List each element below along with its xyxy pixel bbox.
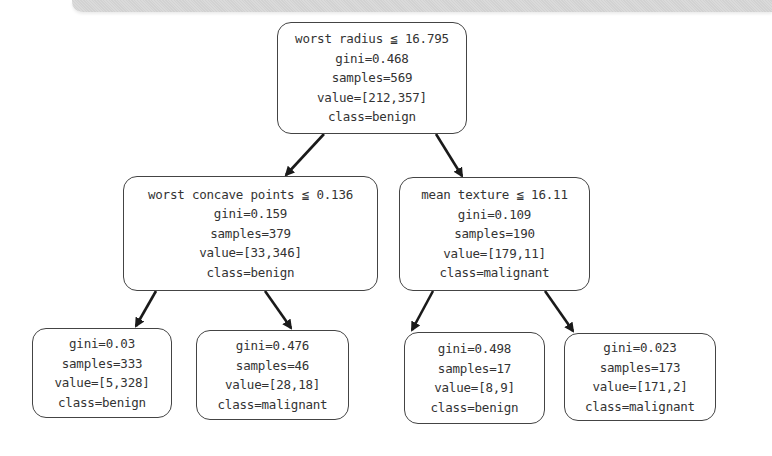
node-value: value=[33,346] [199, 243, 302, 263]
node-class: class=malignant [218, 395, 328, 415]
node-value: value=[179,11] [443, 244, 546, 264]
node-gini: gini=0.476 [236, 336, 309, 356]
node-value: value=[212,357] [317, 88, 427, 108]
node-samples: samples=379 [210, 224, 291, 244]
node-class: class=benign [431, 398, 519, 418]
node-samples: samples=333 [62, 354, 143, 374]
tree-leaf-rr: gini=0.023 samples=173 value=[171,2] cla… [564, 333, 716, 421]
node-class: class=benign [58, 393, 146, 413]
node-samples: samples=569 [332, 68, 413, 88]
node-gini: gini=0.159 [214, 204, 287, 224]
edge-left-lr [265, 291, 291, 328]
node-gini: gini=0.109 [458, 205, 531, 225]
node-class: class=benign [328, 107, 416, 127]
node-value: value=[28,18] [225, 375, 320, 395]
node-value: value=[8,9] [434, 378, 515, 398]
edge-left-ll [136, 291, 156, 326]
tree-node-right: mean texture ≦ 16.11 gini=0.109 samples=… [399, 177, 590, 291]
node-samples: samples=46 [236, 356, 309, 376]
node-split: mean texture ≦ 16.11 [421, 185, 568, 205]
node-split: worst radius ≦ 16.795 [295, 29, 449, 49]
node-class: class=malignant [585, 397, 695, 417]
edge-root-left [286, 134, 324, 175]
edge-right-rr [545, 291, 573, 331]
node-gini: gini=0.468 [335, 49, 408, 69]
node-samples: samples=190 [454, 224, 535, 244]
edge-right-rl [412, 291, 433, 330]
node-samples: samples=173 [600, 358, 681, 378]
tree-leaf-lr: gini=0.476 samples=46 value=[28,18] clas… [196, 330, 349, 420]
node-samples: samples=17 [438, 359, 511, 379]
tree-leaf-rl: gini=0.498 samples=17 value=[8,9] class=… [404, 332, 545, 424]
node-value: value=[171,2] [592, 377, 687, 397]
tree-leaf-ll: gini=0.03 samples=333 value=[5,328] clas… [32, 328, 172, 418]
node-value: value=[5,328] [54, 373, 149, 393]
tree-node-root: worst radius ≦ 16.795 gini=0.468 samples… [277, 22, 467, 134]
node-class: class=malignant [440, 263, 550, 283]
tree-node-left: worst concave points ≦ 0.136 gini=0.159 … [123, 176, 378, 291]
node-split: worst concave points ≦ 0.136 [148, 185, 353, 205]
edge-root-right [436, 134, 462, 176]
node-class: class=benign [207, 263, 295, 283]
node-gini: gini=0.03 [69, 334, 135, 354]
node-gini: gini=0.023 [603, 338, 676, 358]
node-gini: gini=0.498 [438, 339, 511, 359]
